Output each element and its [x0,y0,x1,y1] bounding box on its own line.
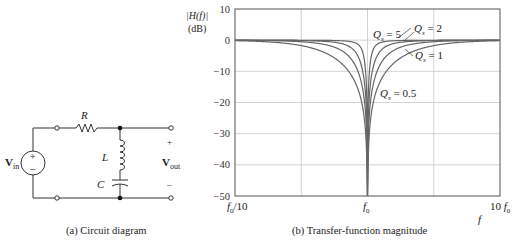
y-tick-label: 10 [220,4,231,15]
leader-qs2 [404,32,414,41]
y-tick-label: −40 [214,159,230,170]
y-tick-label: −10 [214,66,230,77]
annotation-qs2: Qs = 2 [414,22,442,37]
x-tick-10f0: 10 f0 [490,200,510,215]
plot-caption: (b) Transfer-function magnitude [292,225,427,236]
y-tick-label: 0 [225,35,230,46]
x-axis-label: f [478,213,481,225]
x-tick-f0: f0 [363,200,370,215]
annotation-qs5: Qs = 5 [373,28,401,43]
x-tick-f0-over-10: f0/10 [227,200,248,215]
annotation-qs1: Qs = 1 [415,49,443,64]
y-tick-label: −20 [214,97,230,108]
annotation-qs05: Qs = 0.5 [380,87,416,102]
y-tick-label: −30 [214,128,230,139]
